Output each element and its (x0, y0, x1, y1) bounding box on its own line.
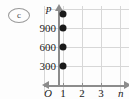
y-tick-label: 600 (16, 42, 56, 53)
x-tick-label: 2 (76, 87, 88, 99)
gridline-horizontal (44, 66, 129, 67)
origin-label: O (44, 87, 52, 99)
y-axis-label: p (46, 2, 52, 14)
data-point (60, 25, 67, 32)
chart-screenshot: c p n 900 600 300 O 1 2 3 (0, 0, 129, 99)
y-tick-label: 900 (16, 23, 56, 34)
y-tick-label: 300 (16, 61, 56, 72)
data-point (60, 63, 67, 70)
data-point (60, 11, 67, 18)
data-point (60, 44, 67, 51)
plot-area: p n 900 600 300 O 1 2 3 (44, 6, 129, 93)
gridline-horizontal (44, 47, 129, 48)
x-axis-label: n (118, 87, 124, 99)
x-tick-label: 3 (95, 87, 107, 99)
gridline-vertical (82, 6, 83, 93)
gridline-vertical (101, 6, 102, 93)
gridline-horizontal (44, 28, 129, 29)
x-axis-arrowhead-right-icon (124, 81, 129, 89)
x-tick-label: 1 (57, 87, 69, 99)
gridline-vertical (120, 6, 121, 93)
part-label-badge: c (8, 8, 30, 23)
